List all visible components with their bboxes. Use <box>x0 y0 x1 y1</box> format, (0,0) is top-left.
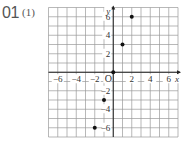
y-tick-label: 4 <box>106 30 111 40</box>
x-tick-label: 2 <box>130 74 135 84</box>
x-tick-label: −6 <box>53 74 63 84</box>
coordinate-plane: −6−4−2246−6−4−2246Oxy <box>0 0 185 153</box>
x-tick-label: −4 <box>71 74 81 84</box>
y-tick-label: −2 <box>101 86 111 96</box>
data-point <box>130 15 134 19</box>
x-tick-label: 6 <box>167 74 172 84</box>
data-point <box>111 70 115 74</box>
data-point <box>102 98 106 102</box>
data-point <box>121 43 125 47</box>
x-tick-label: −2 <box>90 74 100 84</box>
data-point <box>93 126 97 130</box>
origin-label: O <box>105 73 112 84</box>
x-tick-label: 4 <box>148 74 153 84</box>
x-axis-label: x <box>174 74 179 84</box>
tick-labels: −6−4−2246−6−4−2246Oxy <box>52 6 180 133</box>
y-axis-label: y <box>105 6 110 16</box>
y-tick-label: 2 <box>106 49 111 59</box>
y-tick-label: −4 <box>101 104 111 114</box>
y-tick-label: −6 <box>101 123 111 133</box>
